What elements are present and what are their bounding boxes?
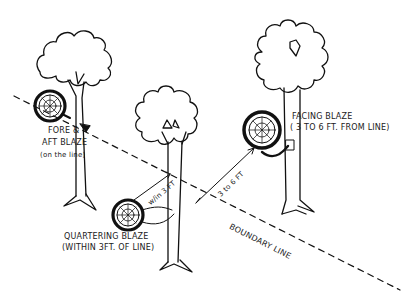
blaze-diagram: FORE & AFT BLAZE (on the line) QUARTERIN… [0,0,408,299]
quartering-label-line2: (WITHIN 3FT. OF LINE) [62,243,154,253]
fore-aft-label-line2: AFT BLAZE [42,138,87,148]
facing-label-line1: FACING BLAZE [292,112,352,122]
fore-aft-label-line3: (on the line) [40,150,85,160]
facing-label-line2: ( 3 TO 6 FT. FROM LINE) [290,123,390,133]
facing-blaze-icon [244,112,294,156]
quartering-blaze-icon [113,200,174,230]
quartering-label-line1: QUARTERING BLAZE [64,232,149,242]
fore-aft-label-line1: FORE & [48,126,80,136]
